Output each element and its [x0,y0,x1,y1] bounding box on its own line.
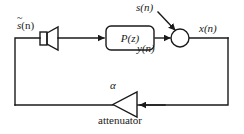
tilde-group: ~s [17,20,21,31]
summing-junction-circle [171,29,189,47]
wire-feedback-to-speaker [15,38,40,105]
label-source-signal: ~s(n) [17,20,34,31]
diagram-canvas: P(z) ~s(n) s(n) y(n) x(n) α attenuator [0,0,244,134]
label-attenuator: attenuator [98,115,142,126]
label-noise-input: s(n) [136,2,153,13]
label-gain-alpha: α [110,80,116,91]
loudspeaker-horn [47,27,58,50]
label-filter-output: y(n) [137,43,155,54]
loudspeaker-body [40,32,47,45]
tilde-accent: ~ [17,13,21,23]
source-signal-arg: (n) [21,19,34,31]
wire-source-to-sum [158,12,175,30]
label-mic-signal: x(n) [199,23,217,34]
